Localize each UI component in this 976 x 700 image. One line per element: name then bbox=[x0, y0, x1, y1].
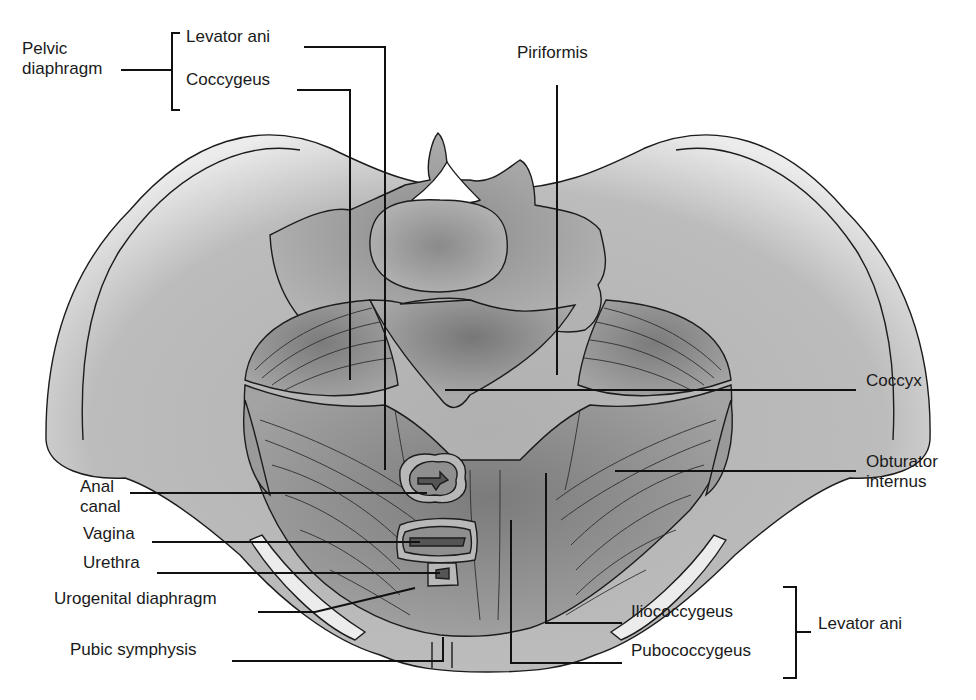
label-piriformis: Piriformis bbox=[517, 43, 588, 63]
label-pubic-symphysis: Pubic symphysis bbox=[70, 640, 197, 660]
urethra bbox=[428, 563, 458, 586]
label-vagina: Vagina bbox=[83, 524, 135, 544]
label-pubococcygeus: Pubococcygeus bbox=[631, 641, 751, 661]
label-iliococcygeus: Iliococcygeus bbox=[631, 602, 733, 622]
label-urogenital-diaphragm: Urogenital diaphragm bbox=[54, 589, 217, 609]
vagina bbox=[397, 519, 478, 563]
label-levator-ani-right: Levator ani bbox=[818, 614, 902, 634]
label-pelvic-diaphragm: Pelvic diaphragm bbox=[22, 39, 102, 79]
pelvic-diaphragm-bracket bbox=[172, 33, 180, 110]
anal-canal bbox=[400, 454, 466, 503]
label-levator-ani-top: Levator ani bbox=[186, 27, 270, 47]
label-urethra: Urethra bbox=[83, 553, 140, 573]
label-anal-canal: Anal canal bbox=[80, 477, 121, 517]
label-coccygeus: Coccygeus bbox=[186, 70, 270, 90]
levator-ani-bracket bbox=[783, 587, 796, 678]
label-obturator-internus: Obturator internus bbox=[866, 452, 938, 492]
label-coccyx: Coccyx bbox=[866, 371, 922, 391]
